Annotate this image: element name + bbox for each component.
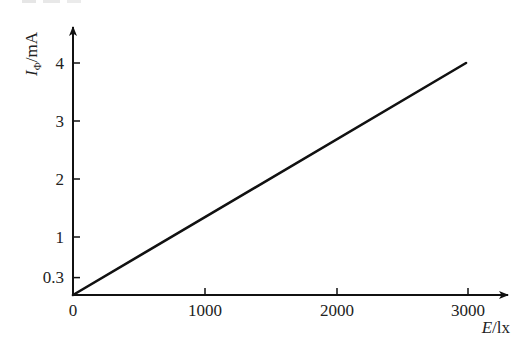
x-tick-label-1000: 1000 [188, 301, 222, 320]
y-axis-label: IΦ/mA [22, 31, 43, 77]
y-axis-label-sub: Φ [31, 62, 43, 70]
y-tick-label-4: 4 [56, 54, 65, 73]
origin-label: 0 [69, 301, 78, 320]
x-axis-label-var: E [481, 318, 493, 337]
photocurrent-illuminance-chart: 0.3 1 2 3 4 0 1000 2000 3000 E/lx IΦ/mA [0, 0, 522, 352]
y-ticks [73, 63, 80, 278]
y-tick-label-2: 2 [56, 170, 65, 189]
y-tick-label-3: 3 [56, 112, 65, 131]
x-tick-label-3000: 3000 [451, 301, 485, 320]
x-ticks [205, 288, 468, 295]
x-axis-label-unit: /lx [492, 318, 510, 337]
photocurrent-line [73, 63, 466, 295]
x-tick-label-2000: 2000 [320, 301, 354, 320]
y-tick-label-0.3: 0.3 [43, 268, 64, 287]
x-axis-label: E/lx [481, 318, 511, 337]
y-tick-label-1: 1 [56, 228, 65, 247]
y-axis-label-unit: /mA [22, 31, 41, 62]
